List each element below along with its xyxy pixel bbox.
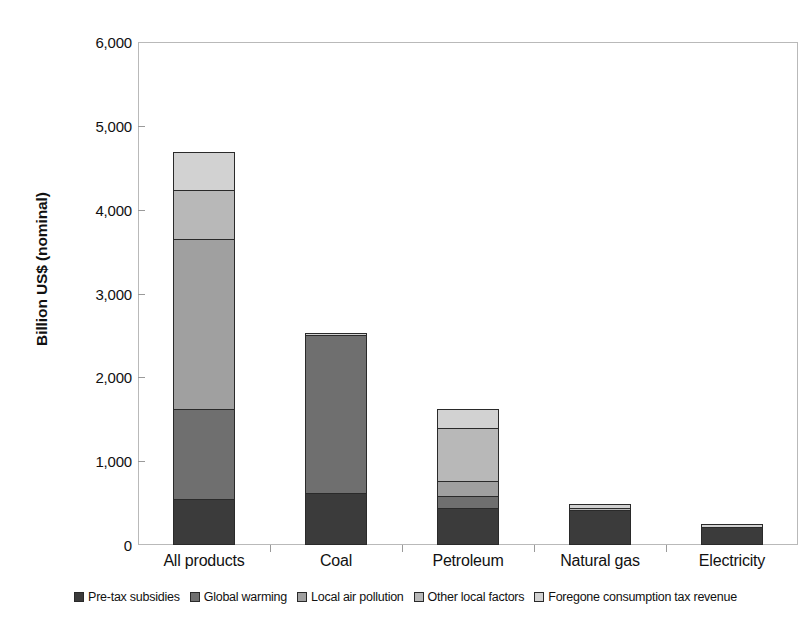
- legend-item[interactable]: Local air pollution: [297, 590, 404, 604]
- x-axis-tick-label: All products: [163, 552, 244, 570]
- legend-swatch-icon: [74, 592, 84, 602]
- bar-segment[interactable]: [437, 508, 499, 545]
- legend-label: Pre-tax subsidies: [88, 590, 180, 604]
- bar-segment[interactable]: [701, 527, 763, 545]
- legend-label: Other local factors: [428, 590, 525, 604]
- y-axis-tick-label: 4,000: [48, 201, 132, 218]
- chart-legend: Pre-tax subsidiesGlobal warmingLocal air…: [0, 590, 811, 604]
- legend-label: Foregone consumption tax revenue: [548, 590, 737, 604]
- legend-item[interactable]: Global warming: [190, 590, 287, 604]
- bar-segment[interactable]: [437, 481, 499, 496]
- x-axis-tick-mark: [270, 545, 271, 552]
- y-axis-tick-mark: [138, 210, 145, 211]
- y-axis-tick-label: 1,000: [48, 453, 132, 470]
- legend-item[interactable]: Foregone consumption tax revenue: [534, 590, 737, 604]
- bar-segment[interactable]: [173, 152, 235, 190]
- bar-segment[interactable]: [569, 510, 631, 545]
- bar-group[interactable]: [569, 42, 631, 545]
- bar-segment[interactable]: [173, 190, 235, 239]
- bar-segment[interactable]: [173, 499, 235, 545]
- x-axis-tick-mark: [534, 545, 535, 552]
- bar-segment[interactable]: [173, 409, 235, 499]
- bar-segment[interactable]: [173, 239, 235, 409]
- legend-label: Global warming: [204, 590, 287, 604]
- bar-segment[interactable]: [305, 493, 367, 545]
- y-axis-tick-mark: [138, 377, 145, 378]
- y-axis-tick-mark: [138, 126, 145, 127]
- bar-group[interactable]: [305, 42, 367, 545]
- stacked-bar-chart: Billion US$ (nominal) 01,0002,0003,0004,…: [0, 0, 811, 643]
- legend-label: Local air pollution: [311, 590, 404, 604]
- y-axis-tick-mark: [138, 461, 145, 462]
- bar-stack[interactable]: [173, 152, 235, 545]
- bar-stack[interactable]: [569, 504, 631, 545]
- legend-item[interactable]: Pre-tax subsidies: [74, 590, 180, 604]
- bar-segment[interactable]: [437, 496, 499, 508]
- x-axis-tick-label: Electricity: [699, 552, 765, 570]
- bar-stack[interactable]: [701, 524, 763, 545]
- bar-segment[interactable]: [437, 409, 499, 427]
- bar-segment[interactable]: [437, 428, 499, 482]
- legend-swatch-icon: [414, 592, 424, 602]
- x-axis-tick-label: Natural gas: [560, 552, 640, 570]
- x-axis-tick-mark: [402, 545, 403, 552]
- legend-swatch-icon: [297, 592, 307, 602]
- legend-item[interactable]: Other local factors: [414, 590, 525, 604]
- y-axis-tick-label: 5,000: [48, 117, 132, 134]
- bar-stack[interactable]: [437, 409, 499, 545]
- y-axis-tick-label: 6,000: [48, 34, 132, 51]
- y-axis-tick-label: 3,000: [48, 285, 132, 302]
- bar-stack[interactable]: [305, 333, 367, 545]
- x-axis-tick-mark: [666, 545, 667, 552]
- bar-segment[interactable]: [305, 335, 367, 493]
- x-axis-tick-label: Petroleum: [432, 552, 503, 570]
- legend-swatch-icon: [534, 592, 544, 602]
- bar-group[interactable]: [437, 42, 499, 545]
- x-axis-tick-labels: All productsCoalPetroleumNatural gasElec…: [138, 552, 798, 580]
- y-axis-tick-label: 0: [48, 537, 132, 554]
- x-axis-tick-label: Coal: [320, 552, 352, 570]
- y-axis-tick-label: 2,000: [48, 369, 132, 386]
- legend-swatch-icon: [190, 592, 200, 602]
- bar-group[interactable]: [701, 42, 763, 545]
- bars-layer: [138, 42, 798, 545]
- y-axis-tick-mark: [138, 294, 145, 295]
- bar-group[interactable]: [173, 42, 235, 545]
- y-axis-tick-labels: 01,0002,0003,0004,0005,0006,000: [40, 0, 132, 643]
